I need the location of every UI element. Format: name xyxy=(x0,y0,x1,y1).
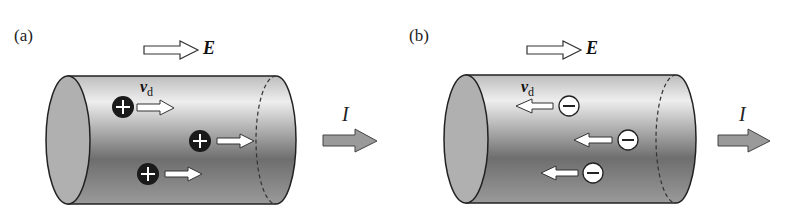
e-field-label: E xyxy=(203,38,215,59)
current-label: I xyxy=(739,103,746,126)
panel-a: (a) E vd I xyxy=(0,0,397,220)
e-field-label: E xyxy=(586,38,598,59)
current-label: I xyxy=(342,103,349,126)
panel-b: (b) E vd I xyxy=(397,0,794,220)
panel-label: (b) xyxy=(409,26,429,46)
drift-velocity-label: vd xyxy=(521,78,534,100)
drift-velocity-label: vd xyxy=(140,78,153,100)
panel-label: (a) xyxy=(14,26,33,46)
